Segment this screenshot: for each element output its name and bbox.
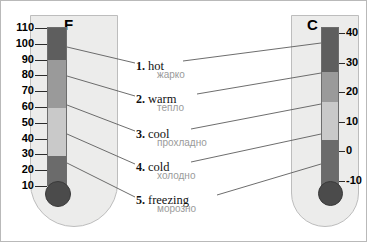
- caption-number: 1.: [136, 59, 145, 73]
- leader-line-f-2: [67, 76, 135, 96]
- caption-number: 4.: [136, 160, 145, 174]
- caption-item[interactable]: 4.coldхолодно: [136, 157, 170, 175]
- caption-russian: тепло: [157, 102, 184, 113]
- caption-list: 1.hotжарко2.warmтепло3.coolпрохладно4.co…: [136, 1, 246, 242]
- caption-russian: прохладно: [157, 137, 207, 148]
- caption-item[interactable]: 5.freezingморозно: [136, 190, 189, 208]
- caption-russian: морозно: [157, 203, 196, 214]
- caption-number: 5.: [136, 193, 145, 207]
- caption-russian: жарко: [157, 69, 185, 80]
- caption-russian: холодно: [157, 170, 195, 181]
- leader-line-f-3: [67, 105, 135, 131]
- caption-item[interactable]: 2.warmтепло: [136, 89, 176, 107]
- caption-number: 3.: [136, 127, 145, 141]
- caption-item[interactable]: 3.coolпрохладно: [136, 124, 170, 142]
- leader-line-f-5: [67, 163, 135, 197]
- leader-line-f-4: [67, 134, 135, 164]
- caption-number: 2.: [136, 92, 145, 106]
- leader-line-f-1: [67, 47, 135, 63]
- thermometer-diagram: F 110100908070605040302010 C 403020100-1…: [0, 0, 367, 242]
- caption-item[interactable]: 1.hotжарко: [136, 56, 164, 74]
